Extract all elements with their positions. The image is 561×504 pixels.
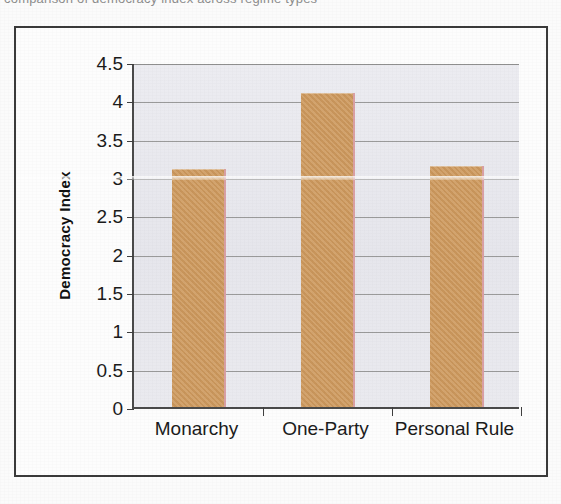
- clipped-caption-text: comparison of democracy index across reg…: [4, 0, 317, 6]
- y-axis-tick-label: 0: [112, 398, 123, 420]
- y-axis-tick-mark: [127, 179, 134, 180]
- y-axis-tick-label: 4: [112, 91, 123, 113]
- y-axis-tick-mark: [127, 217, 134, 218]
- bar-personal-rule[interactable]: [430, 166, 484, 408]
- y-axis-tick-mark: [127, 294, 134, 295]
- bar-chart: Democracy Index 00.511.522.533.544.5 Mon…: [16, 28, 546, 475]
- y-axis-tick-mark: [127, 371, 134, 372]
- bar-monarchy[interactable]: [172, 169, 226, 407]
- x-axis-tick-label: Monarchy: [155, 418, 238, 440]
- y-axis-tick-mark: [127, 256, 134, 257]
- y-axis-tick-label: 4.5: [97, 53, 123, 75]
- y-axis-tick-label: 2.5: [97, 206, 123, 228]
- x-axis-tick-label: One-Party: [282, 418, 369, 440]
- y-axis-tick-mark: [127, 102, 134, 103]
- plot-area: 00.511.522.533.544.5: [132, 64, 519, 409]
- y-axis-tick-label: 2: [112, 245, 123, 267]
- y-axis-title-text: Democracy Index: [56, 171, 73, 300]
- y-axis-tick-label: 3: [112, 168, 123, 190]
- x-axis-end-tick: [521, 407, 522, 416]
- y-axis-title: Democracy Index: [52, 64, 76, 407]
- y-axis-tick-mark: [127, 64, 134, 65]
- y-axis-tick-label: 3.5: [97, 130, 123, 152]
- y-axis-tick-label: 0.5: [97, 360, 123, 382]
- x-axis-tick-label: Personal Rule: [395, 418, 514, 440]
- y-axis-tick-mark: [127, 141, 134, 142]
- x-axis-separator-tick: [392, 407, 393, 416]
- figure-frame: Democracy Index 00.511.522.533.544.5 Mon…: [14, 26, 548, 477]
- y-axis-tick-mark: [127, 332, 134, 333]
- y-axis-tick-label: 1.5: [97, 283, 123, 305]
- gridline: [134, 64, 519, 65]
- clipped-caption-strip: comparison of democracy index across reg…: [0, 0, 561, 9]
- y-axis-tick-label: 1: [112, 321, 123, 343]
- y-axis-tick-mark: [127, 409, 134, 410]
- bar-one-party[interactable]: [301, 93, 355, 407]
- x-axis-separator-tick: [263, 407, 264, 416]
